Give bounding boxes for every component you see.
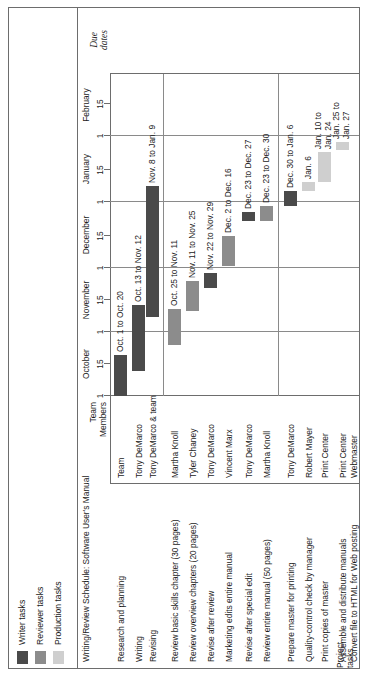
gantt-bar-revise-after-review[interactable] <box>204 273 217 288</box>
column-header-team-members-line2: Members <box>99 402 109 482</box>
gantt-bar-writing[interactable] <box>132 305 145 371</box>
axis-tick-label-dec-1: 1 <box>95 260 105 276</box>
legend-swatch-production <box>53 651 64 664</box>
member-label-revise-after-special-edit: Tony DeMarco <box>244 424 254 478</box>
time-axis: October November December January Februa… <box>9 74 110 396</box>
legend-label-writer: Writer tasks <box>17 600 28 645</box>
member-label-print-copies-of-master: Print Center <box>320 433 330 478</box>
gantt-bar-revising[interactable] <box>146 186 159 317</box>
gantt-bar-research-and-planning[interactable] <box>114 355 127 396</box>
gantt-bar-prepare-master-for-printing[interactable] <box>284 191 297 206</box>
legend-swatch-writer <box>17 651 28 664</box>
axis-tick-label-oct-15: 15 <box>95 354 105 374</box>
task-label-revise-after-special-edit: Revise after special edit <box>244 573 254 662</box>
legend-swatch-reviewer <box>35 651 46 664</box>
task-label-revise-after-review: Revise after review <box>206 591 216 662</box>
gantt-bar-label-review-overview-chapters: Nov. 11 to Nov. 25 <box>188 211 197 279</box>
gantt-bar-revise-after-special-edit[interactable] <box>242 212 255 221</box>
member-label-quality-control-check: Robert Mayer <box>304 427 314 478</box>
chart-border: Writer tasks Reviewer tasks Production t… <box>8 7 360 669</box>
member-label-writing: Tony DeMarco <box>134 424 144 478</box>
plot-area: Oct. 1 to Oct. 20 Oct. 13 to Nov. 12 Nov… <box>110 74 359 396</box>
axis-tick-label-nov-15: 15 <box>95 290 105 310</box>
axis-tick-label-oct-1: 1 <box>95 388 105 404</box>
member-label-marketing-edits-entire-manual: Vincent Marx <box>224 429 234 478</box>
member-label-assemble-and-distribute-manuals: Print Center <box>338 433 348 478</box>
gantt-bar-marketing-edits-entire-manual[interactable] <box>222 236 235 266</box>
axis-tick-label-feb-1: 1 <box>95 128 105 144</box>
task-label-review-entire-manual: Review entire manual (50 pages) <box>262 539 272 662</box>
task-label-assemble-and-distribute-manuals: Assemble and distribute manuals <box>338 539 348 662</box>
gantt-bar-label-revise-after-special-edit: Dec. 23 to Dec. 27 <box>244 140 253 209</box>
gantt-bar-label-quality-control-check: Jan. 6 <box>304 156 313 179</box>
legend: Writer tasks Reviewer tasks Production t… <box>15 544 73 664</box>
task-label-review-overview-chapters: Review overview chapters (20 pages) <box>188 522 198 662</box>
legend-label-production: Production tasks <box>53 581 64 645</box>
gantt-bar-label-assemble-and-distribute-manuals-line2: Jan. 27 <box>342 112 351 139</box>
axis-month-october: October <box>81 332 91 396</box>
axis-tick-label-dec-15: 15 <box>95 226 105 246</box>
gantt-bar-label-assemble-and-distribute-manuals-line1: Jan. 25 to <box>332 102 341 139</box>
gantt-bar-review-overview-chapters[interactable] <box>186 281 199 311</box>
gantt-bar-label-research-and-planning: Oct. 1 to Oct. 20 <box>116 291 125 352</box>
task-label-writing: Writing <box>134 636 144 662</box>
axis-month-february: February <box>81 74 91 136</box>
legend-item-production: Production tasks <box>51 544 66 664</box>
member-label-prepare-master-for-printing: Tony DeMarco <box>286 424 296 478</box>
gantt-bar-label-revise-after-review: Nov. 22 to Nov. 29 <box>206 202 215 270</box>
member-label-review-entire-manual: Martha Knoll <box>262 431 272 478</box>
axis-tick-label-jan-1: 1 <box>95 194 105 210</box>
gantt-bar-assemble-and-distribute-manuals[interactable] <box>336 142 349 150</box>
member-label-research-and-planning: Team <box>116 458 126 478</box>
plot-group-rule-1 <box>163 74 164 396</box>
gantt-chart: Writer tasks Reviewer tasks Production t… <box>0 0 367 677</box>
gantt-bar-print-copies-of-master[interactable] <box>318 152 331 182</box>
gantt-bar-label-review-entire-manual: Dec. 23 to Dec. 30 <box>262 134 271 203</box>
gridline-nov-1 <box>110 331 359 332</box>
rotated-chart-frame: Writer tasks Reviewer tasks Production t… <box>0 0 367 677</box>
task-label-revising: Revising <box>148 630 158 662</box>
gantt-bar-label-writing: Oct. 13 to Nov. 12 <box>134 235 143 302</box>
member-label-review-overview-chapters: Tyler Chaney <box>188 429 198 478</box>
task-label-marketing-edits-entire-manual: Marketing edits entire manual <box>224 552 234 662</box>
column-header-due-dates-line1: Due <box>89 12 99 68</box>
axis-month-december: December <box>81 202 91 268</box>
axis-month-january: January <box>81 136 91 202</box>
gantt-bar-label-marketing-edits-entire-manual: Dec. 2 to Dec. 16 <box>224 168 233 233</box>
legend-item-writer: Writer tasks <box>15 544 30 664</box>
gantt-bar-label-print-copies-of-master-line1: Jan. 10 to <box>314 112 323 149</box>
member-label-review-basic-skills-chapter: Martha Knoll <box>170 431 180 478</box>
gantt-bar-label-prepare-master-for-printing: Dec. 30 to Jan. 6 <box>286 125 295 188</box>
legend-item-reviewer: Reviewer tasks <box>33 544 48 664</box>
task-label-prepare-master-for-printing: Prepare master for printing <box>286 562 296 662</box>
task-label-review-basic-skills-chapter: Review basic skills chapter (30 pages) <box>170 520 180 662</box>
plot-group-rule-2 <box>278 74 279 396</box>
task-label-print-copies-of-master: Print copies of master <box>320 581 330 662</box>
gantt-bar-label-revising: Nov. 8 to Jan. 9 <box>148 125 157 183</box>
task-label-research-and-planning: Research and planning <box>116 576 126 662</box>
axis-tick-label-nov-1: 1 <box>95 324 105 340</box>
member-label-revising: Tony DeMarco & team <box>148 395 158 478</box>
gantt-bar-label-review-basic-skills-chapter: Oct. 25 to Nov. 11 <box>170 240 179 306</box>
column-header-due-dates-line2: dates <box>99 12 109 68</box>
axis-month-november: November <box>81 268 91 332</box>
task-label-convert-file-to-html: Convert file to HTML for Web posting <box>349 525 359 662</box>
axis-tick-label-feb-15: 15 <box>95 94 105 114</box>
legend-label-reviewer: Reviewer tasks <box>35 587 46 645</box>
gantt-bar-quality-control-check[interactable] <box>302 182 315 191</box>
member-label-revise-after-review: Tony DeMarco <box>206 424 216 478</box>
task-member-divider <box>110 483 359 484</box>
gantt-bar-review-basic-skills-chapter[interactable] <box>168 309 181 345</box>
axis-tick-label-jan-15: 15 <box>95 160 105 180</box>
gantt-bar-review-entire-manual[interactable] <box>260 206 273 221</box>
member-label-convert-file-to-html: Webmaster <box>349 435 359 478</box>
task-label-quality-control-check: Quality-control check by manager <box>304 537 314 662</box>
